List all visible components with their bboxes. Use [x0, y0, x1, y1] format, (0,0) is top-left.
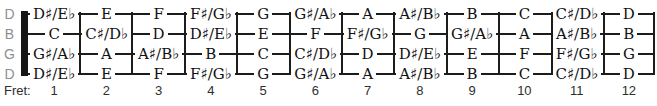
note-label: F [307, 24, 323, 44]
note-label: D [359, 44, 377, 64]
string-line [638, 13, 655, 15]
note-label: G♯/A♭ [291, 64, 339, 84]
note-cell: F [133, 64, 185, 84]
note-cell: G♯/A♭ [28, 44, 80, 64]
string-line [28, 33, 45, 35]
note-label: F♯/G♭ [187, 64, 235, 84]
string-line [376, 13, 394, 15]
string-line [272, 73, 289, 75]
note-cell: F♯/G♭ [185, 4, 237, 24]
string-line [446, 53, 464, 55]
note-cell: A♯/B♭ [551, 24, 603, 44]
string-line [429, 33, 446, 35]
string-row-2: C C♯/D♭ D D♯/E♭ E F F♯/G♭ G G♯/A♭ A A♯/B… [28, 24, 655, 44]
string-line [603, 13, 620, 15]
string-label-2: B [0, 24, 19, 44]
note-cell: A♯/B♭ [394, 4, 446, 24]
note-cell: F [498, 44, 550, 64]
note-cell: A♯/B♭ [394, 64, 446, 84]
note-label: G [620, 44, 638, 64]
note-cell: C [28, 24, 80, 44]
note-cell: E [237, 24, 289, 44]
note-label: B [464, 4, 481, 24]
string-line [637, 33, 655, 35]
string-line [376, 73, 394, 75]
string-line [133, 33, 150, 35]
note-cell: B [446, 4, 498, 24]
note-label: F♯/G♭ [187, 4, 235, 24]
note-label: A [359, 64, 376, 84]
note-cell: C [498, 4, 550, 24]
string-line [237, 33, 255, 35]
note-cell: B [603, 24, 655, 44]
string-line [237, 53, 254, 55]
string-line [324, 33, 342, 35]
string-line [219, 53, 237, 55]
note-label: D♯/E♭ [30, 64, 78, 84]
fret-number-7: 7 [342, 83, 394, 99]
note-cell: E [446, 44, 498, 64]
note-cell: G♯/A♭ [446, 24, 498, 44]
fret-number-9: 9 [446, 83, 498, 99]
note-cell: C♯/D♭ [289, 44, 341, 64]
note-label: C [254, 44, 271, 64]
string-line [533, 13, 550, 15]
note-cell: B [185, 44, 237, 64]
note-cell: A [498, 24, 550, 44]
note-cell: C♯/D♭ [80, 24, 132, 44]
string-label-3: G [0, 44, 19, 64]
string-line [115, 13, 133, 15]
note-cell: F♯/G♭ [342, 24, 394, 44]
note-label: C [516, 4, 533, 24]
note-label: C♯/D♭ [553, 64, 602, 84]
note-label: A [98, 44, 115, 64]
string-line [603, 73, 620, 75]
note-label: G♯/A♭ [30, 44, 78, 64]
note-cell: G [603, 44, 655, 64]
fret-number-3: 3 [133, 83, 185, 99]
fret-number-8: 8 [394, 83, 446, 99]
string-line [394, 33, 411, 35]
note-label: D♯/E♭ [187, 24, 235, 44]
note-label: G [254, 64, 272, 84]
fret-number-2: 2 [80, 83, 132, 99]
note-label: B [620, 24, 637, 44]
string-line [446, 73, 464, 75]
string-line [481, 53, 499, 55]
note-label: E [255, 24, 272, 44]
string-line [342, 13, 360, 15]
note-label: A♯/B♭ [553, 24, 600, 44]
note-label: B [464, 64, 481, 84]
string-line [133, 13, 151, 15]
note-label: C♯/D♭ [291, 44, 340, 64]
string-line [237, 73, 254, 75]
string-line [638, 73, 655, 75]
string-line [498, 33, 516, 35]
string-line [115, 53, 133, 55]
string-line [533, 73, 550, 75]
note-cell: G [237, 64, 289, 84]
note-cell: G♯/A♭ [289, 4, 341, 24]
fret-number-5: 5 [237, 83, 289, 99]
string-line [80, 13, 98, 15]
note-label: C [516, 64, 533, 84]
note-cell: A [80, 44, 132, 64]
note-label: D [620, 64, 638, 84]
nut-bar [21, 11, 28, 76]
note-label: F [516, 44, 532, 64]
string-line [272, 13, 289, 15]
string-line [342, 73, 360, 75]
string-line [498, 53, 516, 55]
note-label: A [516, 24, 533, 44]
string-line [80, 73, 98, 75]
string-line [533, 53, 551, 55]
note-label: G♯/A♭ [291, 4, 339, 24]
note-label: D [620, 4, 638, 24]
fret-number-12: 12 [603, 83, 655, 99]
note-cell: C♯/D♭ [551, 4, 603, 24]
note-cell: B [446, 64, 498, 84]
string-line [481, 13, 499, 15]
note-label: A♯/B♭ [396, 64, 443, 84]
note-cell: C [237, 44, 289, 64]
string-line [603, 33, 621, 35]
